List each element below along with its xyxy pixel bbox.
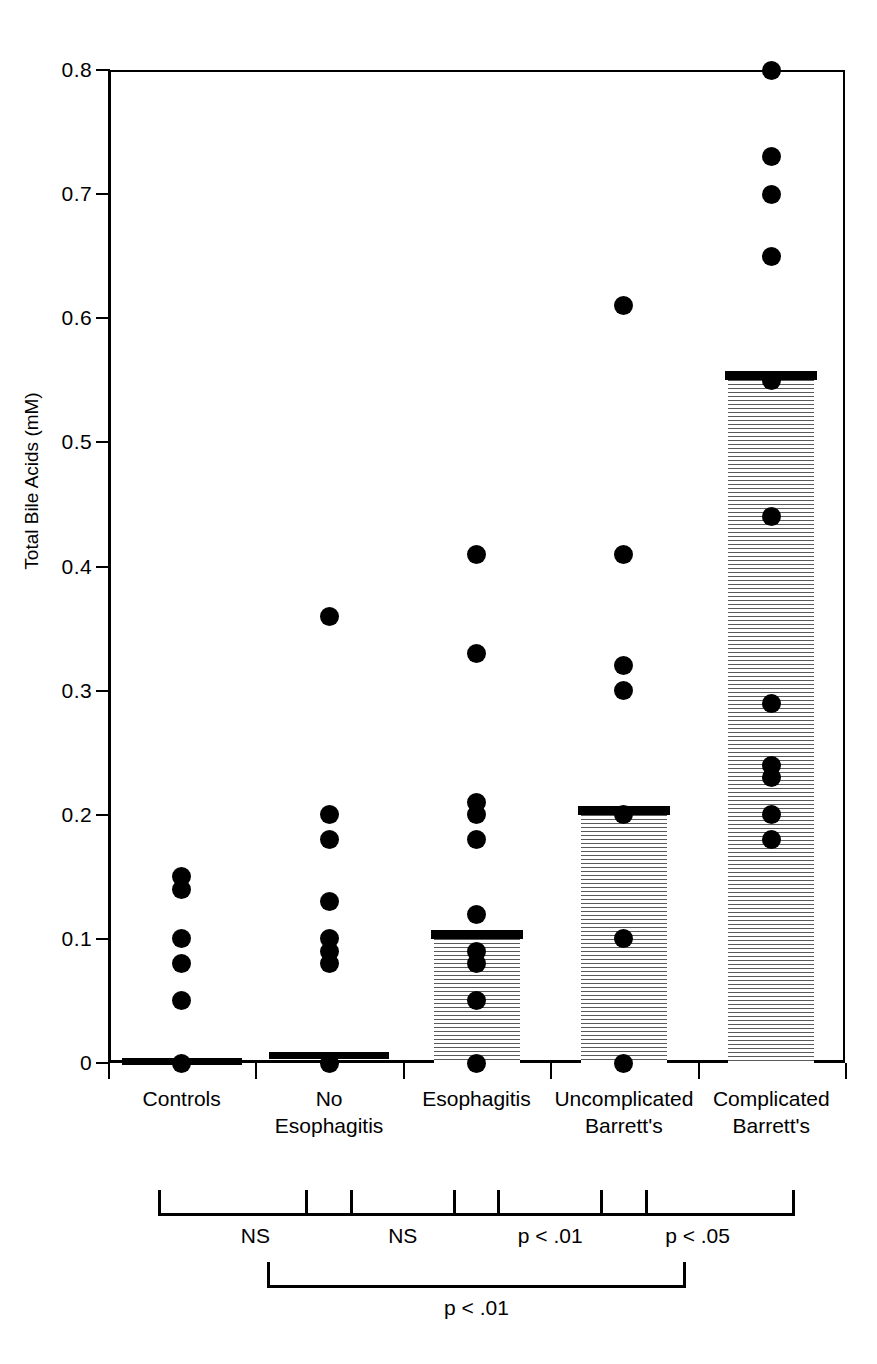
y-axis-tick-label-text: 0.2 [12, 804, 92, 825]
category-label-line: Complicated [688, 1085, 855, 1112]
y-axis-tick-label-text: 0.5 [12, 431, 92, 452]
y-axis-tick-label-text: 0.4 [12, 556, 92, 577]
significance-bracket [600, 1190, 795, 1216]
data-point [467, 644, 486, 663]
data-point [467, 1054, 486, 1073]
data-point [762, 371, 781, 390]
data-point [762, 768, 781, 787]
data-point [172, 880, 191, 899]
y-axis-tick-label-text: 0 [12, 1052, 92, 1073]
category-label-line: Esophagitis [245, 1112, 412, 1139]
significance-bracket [267, 1262, 685, 1288]
y-axis-tick-label-text: 0.1 [12, 928, 92, 949]
data-point [762, 805, 781, 824]
significance-label: p < .01 [267, 1296, 685, 1320]
x-axis-tick [108, 1063, 110, 1079]
x-axis-category-label: Esophagitis [393, 1085, 560, 1112]
significance-label: p < .05 [600, 1224, 795, 1248]
data-point [614, 1054, 633, 1073]
category-label-line: Controls [98, 1085, 265, 1112]
data-point [320, 607, 339, 626]
x-axis-category-label: ComplicatedBarrett's [688, 1085, 855, 1139]
x-axis-tick [550, 1063, 552, 1079]
x-axis-category-label: NoEsophagitis [245, 1085, 412, 1139]
data-point [320, 1054, 339, 1073]
category-label-line: Barrett's [540, 1112, 707, 1139]
data-point [320, 892, 339, 911]
x-axis-tick [255, 1063, 257, 1079]
median-line-3 [431, 930, 523, 939]
y-axis-title: Total Bile Acids (mM) [21, 281, 43, 681]
category-label-line: No [245, 1085, 412, 1112]
data-point [320, 954, 339, 973]
data-point [320, 830, 339, 849]
y-axis-tick-label-text: 0.3 [12, 680, 92, 701]
x-axis-tick [403, 1063, 405, 1079]
y-axis-tick-label-text: 0.8 [12, 59, 92, 80]
data-point [762, 507, 781, 526]
data-point [762, 61, 781, 80]
x-axis-category-label: UncomplicatedBarrett's [540, 1085, 707, 1139]
x-axis-tick [845, 1063, 847, 1079]
data-point [172, 1054, 191, 1073]
data-point [762, 694, 781, 713]
x-axis-tick [698, 1063, 700, 1079]
x-axis-category-label: Controls [98, 1085, 265, 1112]
category-label-line: Esophagitis [393, 1085, 560, 1112]
data-point [614, 545, 633, 564]
figure-root: Total Bile Acids (mM) 00.10.20.30.40.50.… [0, 0, 877, 1364]
median-bar-5 [728, 380, 814, 1063]
data-point [762, 830, 781, 849]
y-axis-tick-label-text: 0.6 [12, 307, 92, 328]
y-axis-tick-label-text: 0.7 [12, 183, 92, 204]
data-point [467, 830, 486, 849]
category-label-line: Uncomplicated [540, 1085, 707, 1112]
data-point [467, 905, 486, 924]
data-point [762, 247, 781, 266]
data-point [320, 805, 339, 824]
data-point [467, 545, 486, 564]
data-point [762, 185, 781, 204]
category-label-line: Barrett's [688, 1112, 855, 1139]
